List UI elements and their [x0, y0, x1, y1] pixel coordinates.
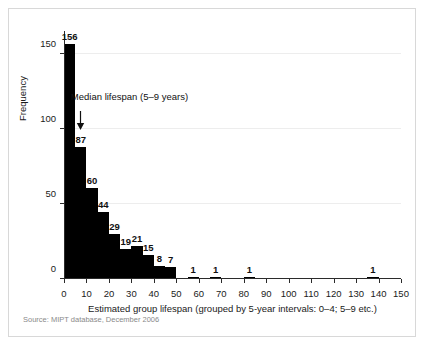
x-axis-tick: [131, 279, 132, 283]
gridline: [64, 53, 401, 54]
x-axis-tick: [64, 279, 65, 283]
down-arrow-icon: [76, 111, 85, 135]
bar: [109, 234, 120, 278]
bar-value-label: 29: [109, 221, 120, 232]
y-axis-title: Frequency: [17, 76, 28, 121]
source-note: Source: MIPT database, December 2006: [23, 315, 159, 324]
x-axis-tick-label: 70: [216, 288, 227, 299]
y-axis-tick: [60, 128, 64, 129]
x-axis-tick-label: 120: [326, 288, 342, 299]
x-axis-tick-label: 20: [104, 288, 115, 299]
x-axis-tick: [311, 279, 312, 283]
bar-value-label: 15: [143, 242, 154, 253]
bar: [131, 246, 142, 278]
y-axis-tick: [60, 278, 64, 279]
y-axis-tick-label: 50: [45, 187, 56, 198]
chart-figure-panel: 0102030405060708090100110120130140150 05…: [8, 8, 416, 337]
plot-area: 0102030405060708090100110120130140150 05…: [64, 31, 401, 279]
bar-value-label: 21: [132, 233, 143, 244]
bar-value-label: 8: [157, 253, 162, 264]
bar: [86, 188, 97, 278]
bar-value-label: 1: [191, 264, 196, 275]
x-axis-tick: [401, 279, 402, 283]
bar: [64, 44, 75, 278]
x-axis-tick-label: 30: [126, 288, 137, 299]
bar-value-label: 60: [87, 175, 98, 186]
x-axis-tick: [289, 279, 290, 283]
x-axis-tick: [379, 279, 380, 283]
median-lifespan-annotation-label: Median lifespan (5–9 years): [71, 91, 188, 102]
bar-value-label: 87: [76, 134, 87, 145]
x-axis-tick-label: 110: [304, 288, 319, 299]
y-axis-tick: [60, 53, 64, 54]
x-axis-tick: [266, 279, 267, 283]
x-axis-tick-label: 80: [238, 288, 249, 299]
bar-value-label: 1: [247, 264, 252, 275]
x-axis-tick-label: 50: [171, 288, 182, 299]
x-axis-tick-label: 0: [61, 288, 66, 299]
y-axis-tick: [60, 203, 64, 204]
bar: [120, 249, 131, 278]
x-axis-tick: [356, 279, 357, 283]
bar-value-label: 1: [370, 264, 375, 275]
y-axis-tick-label: 150: [40, 37, 56, 48]
bar-value-label: 156: [62, 31, 78, 42]
bar: [154, 266, 165, 278]
bar: [165, 267, 176, 278]
bar-value-label: 7: [168, 254, 173, 265]
x-axis-tick: [244, 279, 245, 283]
x-axis-tick-label: 100: [281, 288, 297, 299]
x-axis-tick-label: 150: [393, 288, 409, 299]
median-lifespan-annotation: Median lifespan (5–9 years): [71, 91, 188, 102]
x-axis-tick: [176, 279, 177, 283]
bar: [75, 147, 86, 278]
x-axis-tick-label: 10: [81, 288, 92, 299]
bar: [98, 212, 109, 278]
x-axis-tick: [199, 279, 200, 283]
bar-value-label: 19: [120, 236, 131, 247]
y-axis-line: [64, 31, 65, 279]
bar: [143, 255, 154, 278]
x-axis-tick-label: 60: [194, 288, 205, 299]
gridline: [64, 203, 401, 204]
axes: 0102030405060708090100110120130140150 05…: [64, 31, 401, 279]
x-axis-tick: [109, 279, 110, 283]
x-axis-tick-label: 90: [261, 288, 272, 299]
gridline: [64, 128, 401, 129]
y-axis-tick-label: 100: [40, 112, 56, 123]
x-axis-tick: [86, 279, 87, 283]
x-axis-tick-label: 140: [371, 288, 387, 299]
x-axis-tick-label: 130: [348, 288, 364, 299]
x-axis-tick-label: 40: [149, 288, 160, 299]
bar-value-label: 1: [213, 264, 218, 275]
x-axis-title: Estimated group lifespan (grouped by 5-y…: [64, 303, 401, 314]
x-axis-tick: [221, 279, 222, 283]
x-axis-line: [64, 278, 401, 279]
bar-value-label: 44: [98, 199, 109, 210]
y-axis-tick-label: 0: [51, 263, 56, 274]
x-axis-tick: [154, 279, 155, 283]
x-axis-tick: [334, 279, 335, 283]
